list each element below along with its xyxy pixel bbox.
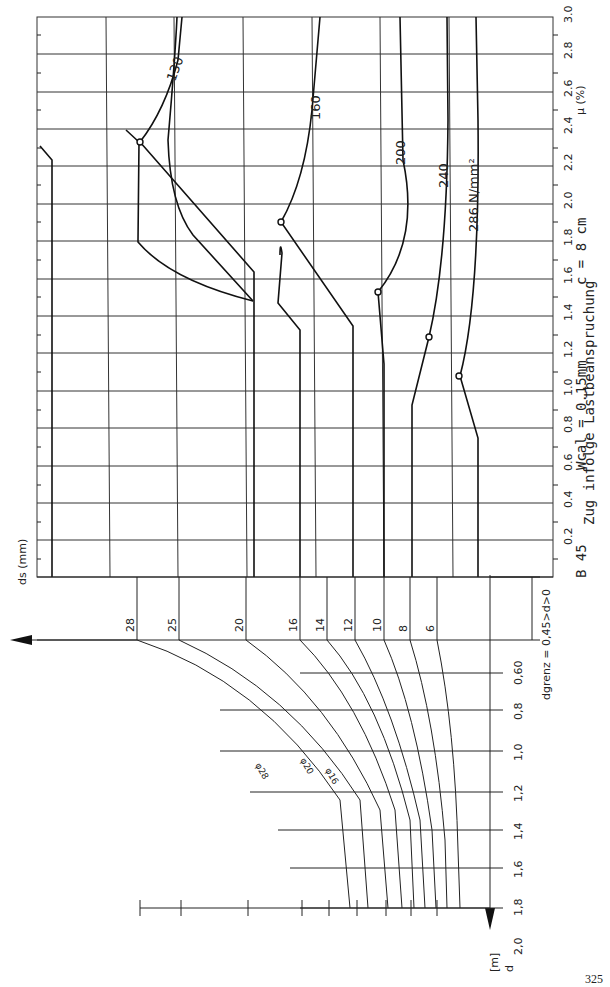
d-tick: 1,6 <box>512 861 525 879</box>
mu-tick: 2.0 <box>562 192 575 210</box>
title-concrete-class: B 45 <box>573 544 589 578</box>
min-marker-240 <box>426 334 432 340</box>
d-tick: 1,8 <box>512 899 525 917</box>
title-cover: c = 8 cm <box>573 218 589 285</box>
min-marker-200 <box>375 289 381 295</box>
mu-tick: 2.8 <box>562 42 575 60</box>
mu-tick: 2.4 <box>562 117 575 135</box>
ds-value: 28 <box>124 618 137 632</box>
ds-value: 10 <box>371 618 384 632</box>
chart-frame <box>37 17 553 577</box>
mu-ds-chart: 0.2 0.4 0.6 0.8 1.0 1.2 1.4 1.6 1.8 2.0 … <box>16 6 587 586</box>
stress-label-286: 286 N/mm² <box>466 158 481 232</box>
stress-label-160: 160 <box>308 95 323 120</box>
curve-130 <box>40 146 52 577</box>
d-tick: 1,0 <box>512 744 525 762</box>
mu-tick: 3.0 <box>562 6 575 24</box>
min-marker-160 <box>278 219 284 225</box>
curve-286 <box>460 17 478 577</box>
stress-label-130: 130 <box>164 55 187 83</box>
mu-tick: 0.4 <box>562 491 575 509</box>
ds-value: 6 <box>424 625 437 632</box>
d-tick: 1,4 <box>512 823 525 841</box>
ds-axis-label: ds (mm) <box>16 539 29 585</box>
ds-value: 25 <box>166 618 179 632</box>
ds-value: 16 <box>287 618 300 632</box>
mu-tick: 2.2 <box>562 154 575 172</box>
d-unit-label: [m] <box>488 953 501 972</box>
min-marker-130 <box>137 139 143 145</box>
ds-gridlines <box>106 17 453 577</box>
mu-tick: 1.2 <box>562 341 575 359</box>
mu-tick: 0.2 <box>562 528 575 546</box>
mu-gridlines <box>37 54 553 540</box>
nomogram-figure: 0.2 0.4 0.6 0.8 1.0 1.2 1.4 1.6 1.8 2.0 … <box>0 0 610 987</box>
ds-value: 14 <box>314 618 327 632</box>
mu-axis-label: μ (%) <box>574 85 587 115</box>
d-gridlines <box>220 673 503 908</box>
curve-130-upper <box>126 130 253 301</box>
stress-label-240: 240 <box>436 163 451 188</box>
ds-value: 20 <box>233 618 246 632</box>
curve-240 <box>412 17 448 577</box>
mu-tick: 1.4 <box>562 304 575 322</box>
ds-value: 12 <box>342 618 355 632</box>
title-block: Zug infolge Lastbeanspruchung B 45 Wcal … <box>573 218 597 578</box>
dgrenz-label: dgrenz = 0,45>d>0 <box>540 589 553 700</box>
d-tick: 1,2 <box>512 785 525 803</box>
phi-label-20: φ20 <box>298 756 315 776</box>
phi-label-28: φ28 <box>253 761 270 781</box>
arrow-down-icon <box>485 908 495 930</box>
mu-axis-ticks <box>553 35 558 559</box>
stress-label-200: 200 <box>393 140 408 165</box>
title-wcal: Wcal = 0.15mm <box>573 360 589 470</box>
arrow-left-icon <box>10 635 32 645</box>
d-tick: 2,0 <box>512 938 525 956</box>
page-number: 325 <box>585 972 603 986</box>
d-tick: 0,8 <box>512 703 525 721</box>
d-nomogram: 0,60 0,8 1,0 1,2 1,4 1,6 1,8 2,0 dgrenz … <box>10 575 553 972</box>
d-axis-label: d <box>503 965 516 972</box>
d-tick: 0,60 <box>512 661 525 686</box>
ds-scale: 28 25 20 16 14 12 10 8 6 <box>37 577 553 640</box>
left-edge-ticks <box>37 35 41 559</box>
ds-value: 8 <box>397 625 410 632</box>
min-marker-286 <box>456 373 462 379</box>
